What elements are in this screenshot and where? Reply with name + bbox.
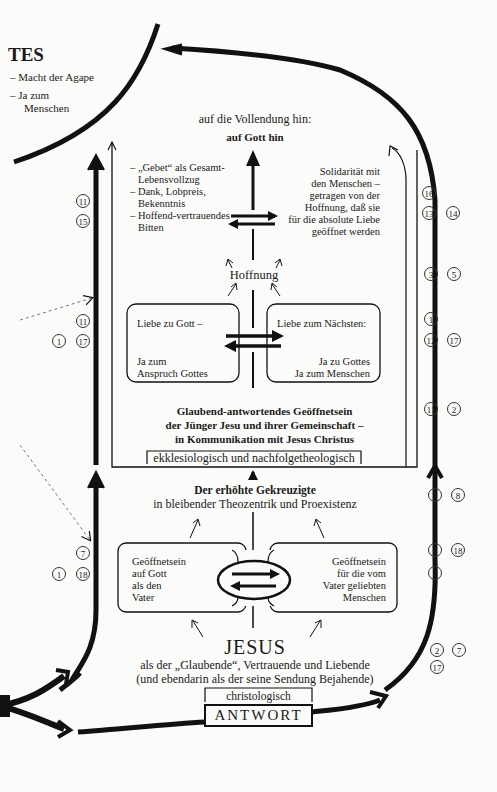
ref-circle: 7 — [428, 488, 442, 502]
ref-circle: 11 — [76, 314, 90, 328]
goal-bold: auf Gott hin — [200, 131, 310, 144]
ref-circle: 7 — [452, 643, 466, 657]
open-god-line: Geöffnetsein — [132, 556, 186, 568]
ref-circle: 2 — [430, 643, 444, 657]
ref-circle: 18 — [451, 543, 465, 557]
ref-circle: 3 — [424, 267, 438, 281]
hope-label: Hoffnung — [220, 268, 288, 282]
ref-circle: 8 — [428, 543, 442, 557]
exalted-sub: in bleibender Theozentrik und Proexisten… — [130, 498, 380, 512]
prayer-item: – „Gebet“ als Gesamt- — [130, 162, 225, 174]
ref-circle: 8 — [451, 488, 465, 502]
ref-circle: 18 — [76, 567, 90, 581]
love-neighbor-line1: Liebe zum Nächsten: — [277, 318, 366, 330]
ref-circle: 1 — [52, 567, 66, 581]
christological-label: christologisch — [205, 690, 312, 703]
solidarity-line: geöffnet werden — [270, 226, 380, 238]
love-god-line2: Ja zum — [137, 356, 166, 368]
ref-circle: 12 — [424, 333, 438, 347]
prayer-item: – Dank, Lobpreis, — [130, 186, 206, 198]
solidarity-line: den Menschen – — [270, 178, 380, 190]
love-god-line1: Liebe zu Gott – — [137, 318, 203, 330]
solidarity-line: Solidarität mit — [270, 166, 380, 178]
prayer-item: Bekenntnis — [138, 198, 185, 210]
solidarity-line: Hoffnung, daß sie — [270, 202, 380, 214]
open-people-line: für die vom — [290, 568, 386, 580]
love-neighbor-line3: Ja zum Menschen — [270, 368, 370, 380]
jesus-line2: (und ebendarin als der seine Sendung Bej… — [115, 673, 395, 687]
exchange-ellipse — [218, 561, 290, 599]
open-god-line: auf Gott — [132, 568, 167, 580]
community-label: ekklesiologisch und nachfolgetheologisch — [147, 452, 361, 466]
goal-text: auf die Vollendung hin: — [170, 113, 340, 127]
open-people-line: Vater geliebten — [290, 580, 386, 592]
love-neighbor-line2: Ja zu Gottes — [270, 356, 370, 368]
prayer-item: Lebensvollzug — [138, 174, 200, 186]
open-people-line: Geöffnetsein — [290, 556, 386, 568]
ref-circle: 1 — [52, 334, 66, 348]
community-line1: Glaubend-antwortendes Geöffnetsein — [112, 405, 417, 418]
ref-circle: 1 — [424, 312, 438, 326]
prayer-item: – Hoffend-vertrauendes — [130, 210, 230, 222]
jesus-line1: als der „Glaubende“, Vertrauende und Lie… — [120, 659, 390, 673]
ref-circle: 17 — [447, 333, 461, 347]
ref-circle: 15 — [76, 214, 90, 228]
tes-title: TES — [8, 44, 44, 66]
community-line3: in Kommunikation mit Jesus Christus — [112, 433, 417, 446]
ref-circle: 14 — [446, 206, 460, 220]
ref-circle: 16 — [422, 186, 436, 200]
ref-circle: 13 — [422, 206, 436, 220]
prayer-item: Bitten — [138, 222, 164, 234]
open-people-line: Menschen — [290, 592, 386, 604]
ref-circle: 1 — [428, 566, 442, 580]
ref-circle: 11 — [76, 194, 90, 208]
tes-item-agape: – Macht der Agape — [10, 71, 94, 84]
ref-circle: 2 — [447, 402, 461, 416]
ref-circle: 5 — [447, 267, 461, 281]
ref-circle: 7 — [76, 546, 90, 560]
solidarity-line: für die absolute Liebe — [260, 214, 380, 226]
tes-item-ja-zum: – Ja zum — [10, 89, 49, 102]
solidarity-line: getragen von der — [270, 190, 380, 202]
community-line2: der Jünger Jesu und ihrer Gemeinschaft – — [112, 419, 417, 432]
jesus-title: JESUS — [200, 636, 310, 659]
open-god-line: als den — [132, 580, 161, 592]
answer-label: ANTWORT — [205, 707, 312, 724]
ref-circle: 11 — [424, 402, 438, 416]
open-god-line: Vater — [132, 592, 154, 604]
love-god-line3: Anspruch Gottes — [137, 368, 208, 380]
exalted-title: Der erhöhte Gekreuzigte — [160, 484, 350, 497]
ref-circle: 17 — [76, 334, 90, 348]
tes-item-menschen: Menschen — [24, 102, 69, 115]
ref-circle: 17 — [430, 660, 444, 674]
